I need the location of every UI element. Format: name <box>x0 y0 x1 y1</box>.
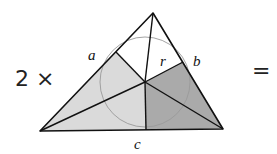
incircle-area-diagram: 2 × a b r c = <box>0 0 277 154</box>
triangle-figure <box>0 0 277 154</box>
bisector-top <box>145 13 153 82</box>
radius-bottom <box>145 82 146 130</box>
side-label-b: b <box>193 54 201 69</box>
right-kite-shaded <box>145 62 223 130</box>
side-label-a: a <box>88 48 96 63</box>
radius-label-r: r <box>160 54 166 69</box>
side-label-c: c <box>134 137 141 152</box>
left-kite-shaded <box>40 52 146 131</box>
equals-sign: = <box>252 60 270 82</box>
